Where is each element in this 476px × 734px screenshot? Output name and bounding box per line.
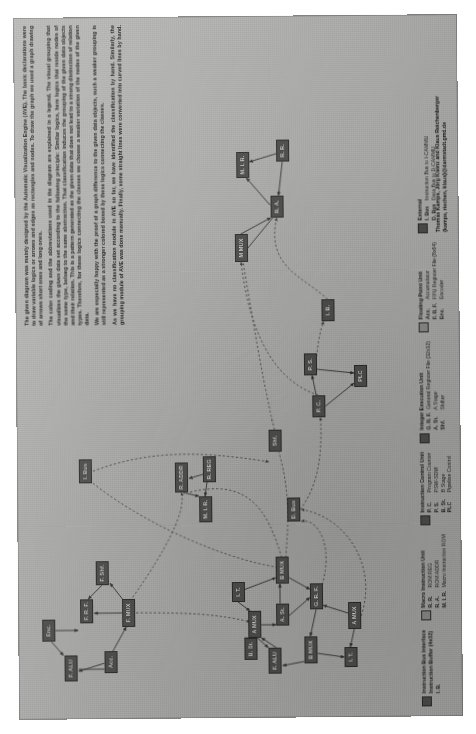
legend-item-abbr: Enc. xyxy=(438,302,445,319)
node-box[interactable]: PLC xyxy=(354,365,367,387)
node-box[interactable]: B. St. xyxy=(244,638,257,660)
node-box[interactable]: P. S. xyxy=(304,353,317,375)
legend-item-abbr: PLC xyxy=(446,495,453,512)
legend-swatch-icon xyxy=(419,322,429,332)
node-box[interactable]: Acc. xyxy=(104,651,117,673)
scanned-poster-page: F. ALU Enc. Acc. F. R. F. F. MUX F. Shf.… xyxy=(0,0,476,734)
description-paragraph: We are especially happy with the proof o… xyxy=(91,25,108,325)
diagram-legend: Instruction Bus Interface Instruction Bu… xyxy=(416,136,455,707)
node-box[interactable]: F. Shf. xyxy=(96,561,109,585)
description-paragraph: As we have no classification module in A… xyxy=(109,25,126,325)
node-box[interactable]: D. Bus xyxy=(287,497,300,521)
node-box[interactable]: R. R. xyxy=(276,140,289,162)
legend-item: Shf. Shifter xyxy=(438,341,446,430)
node-box[interactable]: B MUX xyxy=(304,636,317,663)
node-box[interactable]: B MUX xyxy=(276,557,289,584)
description-paragraph: The given diagram was mainly designed by… xyxy=(21,26,45,326)
legend-group-macro-instruction-unit: Macro Instruction Unit R. R. ROM REG R. … xyxy=(420,534,448,621)
legend-group-floating-point-unit: Floating Point Unit Acc. Accumulator F. … xyxy=(417,242,445,332)
node-box[interactable]: Enc. xyxy=(42,620,55,642)
node-box[interactable]: F. ALU xyxy=(268,648,281,674)
legend-item: M. I. R. Macro Instruction ROM xyxy=(440,534,447,607)
legend-item-name: Encoder xyxy=(438,280,445,299)
legend-item: PLC Pipeline Control xyxy=(446,452,453,513)
legend-item-abbr: D. Bus xyxy=(430,203,437,220)
node-box[interactable]: A. St. xyxy=(276,604,289,626)
node-box[interactable]: M. I. R. xyxy=(199,496,212,522)
legend-item: Enc. Encoder xyxy=(437,242,444,319)
legend-group-integer-execution-unit: Integer Execution Unit G. R. F. General … xyxy=(418,341,446,443)
legend-item-abbr: I. B. xyxy=(434,676,441,693)
node-box[interactable]: I. B. xyxy=(321,299,334,321)
node-box[interactable]: F. R. F. xyxy=(80,599,93,623)
node-box[interactable]: I. Bus xyxy=(79,459,92,483)
node-box[interactable]: I. T. xyxy=(344,647,357,667)
legend-swatch-icon xyxy=(420,433,430,443)
legend-item-abbr: Shf. xyxy=(439,413,446,430)
legend-item-name: Pipeline Control xyxy=(446,456,453,493)
legend-item: D. Bus Data Bus to D-CAMMU xyxy=(430,136,437,220)
node-box[interactable]: F. MUX xyxy=(122,599,135,627)
description-text-block: The given diagram was mainly designed by… xyxy=(21,25,128,326)
node-box[interactable]: R. REG xyxy=(203,456,216,482)
legend-group-external: External I. Bus Instruction Bus to I-CAM… xyxy=(416,136,437,233)
description-paragraph: The color coding and the abbreviations u… xyxy=(45,25,90,325)
legend-group-instruction-bus-interface: Instruction Bus Interface Instruction Bu… xyxy=(421,630,442,707)
rotated-poster-content: F. ALU Enc. Acc. F. R. F. F. MUX F. Shf.… xyxy=(13,14,463,720)
legend-group-instruction-control-unit: Instruction Control Unit P. C. Program C… xyxy=(419,452,453,526)
node-box[interactable]: F. ALU xyxy=(65,655,78,681)
legend-swatch-icon xyxy=(418,223,428,233)
node-box[interactable]: Shf. xyxy=(269,430,282,452)
legend-item: I. B. xyxy=(434,630,441,694)
paper-sheet: F. ALU Enc. Acc. F. R. F. F. MUX F. Shf.… xyxy=(13,14,463,720)
legend-swatch-icon xyxy=(422,696,432,706)
node-box[interactable]: R. A. xyxy=(271,196,284,218)
legend-item-name: Shifter xyxy=(439,395,446,410)
node-box[interactable]: A MUX xyxy=(248,611,261,638)
node-box[interactable]: M MUX xyxy=(235,234,248,262)
node-box[interactable]: I. T. xyxy=(232,582,245,602)
node-box[interactable]: A MUX xyxy=(348,602,361,629)
legend-swatch-icon xyxy=(421,611,431,621)
node-box[interactable]: R. ADDR xyxy=(175,462,188,492)
legend-swatch-icon xyxy=(421,515,431,525)
node-box[interactable]: M. I. R. xyxy=(236,152,249,178)
legend-item-name: Data Bus to D-CAMMU xyxy=(430,147,437,201)
node-box[interactable]: G. R. F. xyxy=(310,583,323,609)
legend-item-abbr: M. I. R. xyxy=(440,591,447,608)
legend-item-name: Macro Instruction ROM xyxy=(440,534,447,587)
node-box[interactable]: P. C. xyxy=(312,395,325,417)
